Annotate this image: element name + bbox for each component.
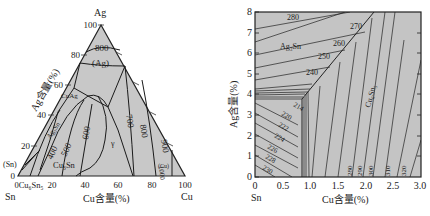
bottom-tick: 60 [114,180,124,190]
bottom-axis-ticks: 0Cu₆Sn₅ 20 40 60 80 100 [14,180,192,190]
isotherm-label: 300 [367,165,375,176]
bottom-tick: 40 [81,180,91,190]
y-axis-title: Ag含量(%) [227,81,240,128]
region-label-ag3sn: Ag₃Sn [280,42,301,51]
y-tick: 5 [247,68,252,79]
x-tick: 0.5 [277,180,290,191]
y-tick: 2 [247,130,252,141]
y-tick: 4 [247,88,252,99]
isotherm-label: 260 [333,39,345,48]
y-tick: 8 [247,6,252,17]
y-tick: 7 [247,27,252,38]
ternary-diagram: 800 700 800 900 600 500 400 1000 (Ag) Cu… [3,7,193,205]
phase-label-cuag: CuAg [61,92,78,100]
isotherm-label: 280 [287,13,299,22]
y-tick: 3 [247,109,252,120]
bottom-tick: 20 [48,180,58,190]
figure: 800 700 800 900 600 500 400 1000 (Ag) Cu… [0,0,430,216]
x-axis-title: Cu含量(%) [322,193,369,206]
isotherm-label: 240 [306,68,318,77]
left-tick: 80 [71,50,81,60]
isotherm-label: 270 [350,22,362,31]
bottom-tick-zero: 0Cu₆Sn₅ [14,180,43,190]
isotherm-label: 800 [95,43,109,53]
contour-plot: Ag₃Sn Cu₆Sn₅ 280 270 260 250 240 214 220… [227,6,426,206]
x-tick: 2.0 [360,180,373,191]
phase-label-cu3sn: Cu₃Sn [53,160,76,170]
y-tick: 1 [247,150,252,161]
x-tick: 3.0 [414,180,427,191]
left-tick: 100 [84,20,98,30]
corner-label-cu: Cu [181,191,193,202]
phase-label-ag: (Ag) [92,58,109,68]
left-tick: 20 [21,141,31,151]
corner-label-ag: Ag [94,7,106,18]
y-axis-ticks: 0 1 2 3 4 5 6 7 8 [247,6,252,182]
x-tick: 2.5 [387,180,400,191]
bottom-tick: 80 [148,180,158,190]
origin-label-sn: Sn [251,192,262,203]
corner-label-sn: Sn [5,191,16,202]
phase-label-gamma: γ [110,139,115,148]
ternary-x-axis-title: Cu含量(%) [83,192,130,205]
isotherm-label: 280 [346,165,354,176]
phase-label-cu: (Cu) [158,163,169,170]
y-tick: 0 [247,171,252,182]
x-tick: 1.5 [332,180,345,191]
isotherm-label: 320 [400,165,408,176]
phase-label-sn: (Sn) [3,160,17,169]
isotherm-label: 290 [356,165,364,176]
y-tick: 6 [247,47,252,58]
isotherm-label: 310 [384,165,392,176]
bottom-tick: 100 [178,180,192,190]
x-axis-ticks: 0 0.5 1.0 1.5 2.0 2.5 3.0 [253,180,427,191]
isotherm-label: 250 [318,52,330,61]
x-tick: 0 [253,180,258,191]
x-tick: 1.0 [304,180,317,191]
